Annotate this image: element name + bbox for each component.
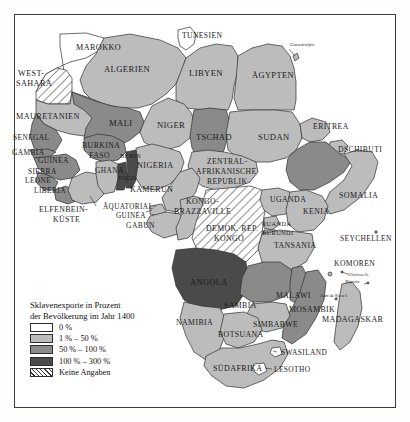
legend-row-0: 0 % xyxy=(30,323,192,332)
country-label-tschad: TSCHAD xyxy=(196,133,232,142)
country-label-niger: NIGER xyxy=(157,120,185,130)
country-label-kueste: KÜSTE xyxy=(53,215,80,224)
country-label-kongo2: KONGO xyxy=(214,234,244,243)
country-label-sudan: SUDAN xyxy=(258,132,290,142)
country-label-aequatorial: ÄQUATORIAL- xyxy=(103,202,156,211)
country-label-dschibuti: DSCHIBUTI xyxy=(338,145,382,154)
country-label-sierra: SIERRA xyxy=(28,167,57,176)
region-gazastreifen xyxy=(293,53,299,61)
legend-row-2: 50 % – 100 % xyxy=(30,345,192,354)
small-label-mayotte: Mayotte xyxy=(344,279,359,284)
country-label-demokrep: DEMOK. REP. xyxy=(206,224,258,233)
legend-row-1: 1 % – 50 % xyxy=(30,334,192,343)
country-label-algerien: ALGERIEN xyxy=(104,64,151,74)
country-label-brazzaville: BRAZZAVILLE xyxy=(174,207,231,216)
country-label-seychellen: SEYCHELLEN xyxy=(340,234,392,243)
slave-export-map-figure: MAROKKOWEST-SAHARATUNESIENALGERIENLIBYEN… xyxy=(0,0,410,422)
country-label-kongo: KONGO- xyxy=(186,197,219,206)
country-label-kamerun: KAMERUN xyxy=(130,185,173,194)
country-label-zentral: ZENTRAL- xyxy=(207,157,247,166)
country-label-lesotho: LESOTHO xyxy=(274,365,311,374)
country-label-leone: LEONE xyxy=(25,176,51,185)
legend-swatch-3 xyxy=(30,357,53,366)
country-label-somalia: SOMALIA xyxy=(339,191,378,200)
country-label-afrikanische: AFRIKANISCHE xyxy=(196,167,257,176)
country-label-mali: MALI xyxy=(109,118,133,128)
legend-swatch-1 xyxy=(30,334,53,343)
country-label-gabun: GABUN xyxy=(126,221,155,230)
legend-swatch-2 xyxy=(30,345,53,354)
legend-title: Sklavenexporte in Prozent der Bevölkerun… xyxy=(30,300,192,321)
country-label-elfenbein: ELFENBEIN- xyxy=(39,205,88,214)
country-label-swasiland: SWASILAND xyxy=(281,348,328,357)
country-label-sahara: SAHARA xyxy=(16,79,52,88)
legend-label-2: 50 % – 100 % xyxy=(59,345,106,354)
legend-row-3: 100 % – 300 % xyxy=(30,357,192,366)
country-label-tansania: TANSANIA xyxy=(274,241,316,250)
country-label-eqguinea: GUINEA xyxy=(116,212,146,220)
country-label-togo: TOGO xyxy=(118,175,136,181)
country-label-libyen: LIBYEN xyxy=(189,68,223,78)
country-komoren xyxy=(328,272,332,276)
map-legend: Sklavenexporte in Prozent der Bevölkerun… xyxy=(30,300,192,377)
country-label-senegal: SENEGAL xyxy=(13,133,50,142)
legend-label-3: 100 % – 300 % xyxy=(59,357,110,366)
legend-swatch-0 xyxy=(30,323,53,332)
country-label-mauretanien: MAURETANIEN xyxy=(16,112,80,121)
small-label-juandenova: Juan de Nova I. xyxy=(320,293,348,298)
country-label-eritrea: ERITREA xyxy=(313,122,349,131)
legend-title-line1: Sklavenexporte in Prozent xyxy=(30,300,192,311)
country-label-botsuana: BOTSUANA xyxy=(218,330,264,339)
country-label-guinea: GUINEA xyxy=(38,156,69,165)
country-label-uganda: UGANDA xyxy=(270,195,306,204)
country-label-angola: ANGOLA xyxy=(190,278,228,287)
country-label-republik: REPUBLIK xyxy=(207,177,247,186)
country-label-aegypten: ÄGYPTEN xyxy=(252,71,294,80)
country-label-simbabwe: SIMBABWE xyxy=(253,320,298,329)
country-label-kenia: KENIA xyxy=(303,207,329,216)
legend-label-0: 0 % xyxy=(59,323,72,332)
country-label-suedafrika: SÜDAFRIKA xyxy=(213,364,262,373)
legend-swatch-4 xyxy=(30,368,53,377)
country-label-west: WEST- xyxy=(18,69,44,78)
country-label-benin: BENIN xyxy=(120,152,141,159)
country-label-mosambik: MOSAMBIK xyxy=(289,305,335,314)
country-label-nigeria: NIGERIA xyxy=(137,161,173,170)
country-label-tunesien: TUNESIEN xyxy=(182,31,222,40)
country-label-faso: FASO xyxy=(89,151,110,160)
legend-label-1: 1 % – 50 % xyxy=(59,334,98,343)
small-label-gloriosa: Gloriosa Is. xyxy=(348,272,369,277)
country-label-ghana: GHANA xyxy=(95,166,124,175)
country-label-komoren: KOMOREN xyxy=(334,259,375,268)
country-label-malawi: MALAWI xyxy=(276,291,311,300)
legend-label-4: Keine Angaben xyxy=(59,368,110,377)
legend-entries: 0 %1 % – 50 %50 % – 100 %100 % – 300 %Ke… xyxy=(30,323,192,376)
country-label-marokko: MAROKKO xyxy=(76,43,121,52)
country-label-ruanda: RUANDA xyxy=(262,220,291,227)
legend-row-4: Keine Angaben xyxy=(30,368,192,377)
country-label-sambia: SAMBIA xyxy=(224,301,257,310)
country-label-burkina: BURKINA xyxy=(82,141,120,150)
small-label-gazastreifen: Gazastreifen xyxy=(290,42,315,47)
country-label-madagaskar: MADAGASKAR xyxy=(322,315,384,324)
country-label-burundi: BURUNDI xyxy=(262,229,294,236)
legend-title-line2: der Bevölkerung im Jahr 1400 xyxy=(30,311,192,322)
country-label-liberia: LIBERIA xyxy=(34,186,66,195)
country-seychellen xyxy=(375,231,377,233)
